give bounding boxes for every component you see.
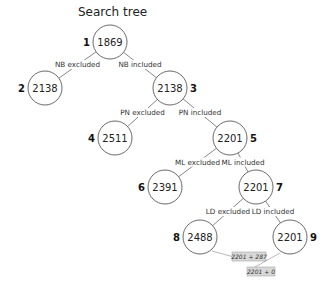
node-index-label: 6 [138,182,145,193]
node-index-label: 8 [173,232,180,243]
node-value: 2138 [157,83,182,94]
annotation-leader-line [212,251,232,257]
tree-node-5: 22015 [213,121,257,155]
tree-node-9: 22019 [273,220,317,254]
node-value: 2488 [187,232,212,243]
edge-label: PN excluded [120,108,164,117]
edge-label: LD excluded [206,207,250,216]
node-index-label: 1 [83,37,90,48]
node-index-label: 2 [18,83,25,94]
tree-node-2: 21382 [18,71,62,105]
node-value: 2201 [217,133,242,144]
tree-node-4: 25114 [88,121,132,155]
node-index-label: 7 [276,182,283,193]
tree-node-8: 24888 [173,220,217,254]
node-index-label: 4 [88,133,95,144]
node-index-label: 5 [250,133,257,144]
node-value: 2138 [32,83,57,94]
edge-label: PN included [179,108,222,117]
tree-node-7: 22017 [239,170,283,204]
node-value: 2201 [277,232,302,243]
annotation-text: 2201 + 287 [231,253,267,260]
edge-label: NB included [118,60,161,69]
node-index-label: 3 [190,83,197,94]
tree-node-6: 23916 [138,170,182,204]
edge-label: ML included [221,158,264,167]
edge-label: NB excluded [55,60,100,69]
node-value: 2201 [243,182,268,193]
tree-node-1: 18691 [83,25,127,59]
search-tree-diagram: Search tree NB excludedNB includedPN exc… [0,0,334,293]
node-index-label: 9 [310,232,317,243]
diagram-title: Search tree [78,5,147,19]
node-value: 2391 [152,182,177,193]
node-value: 1869 [97,37,122,48]
annotations-layer: 2201 + 2872201 + 0 [212,251,280,276]
edge-label: LD included [252,207,294,216]
node-value: 2511 [102,133,127,144]
tree-node-3: 21383 [153,71,197,105]
annotation-text: 2201 + 0 [247,268,275,275]
edge-label: ML excluded [175,158,220,167]
